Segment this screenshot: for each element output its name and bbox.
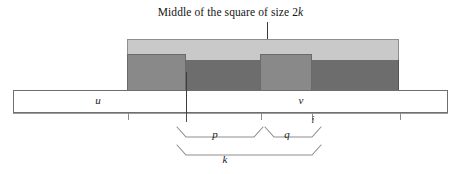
axis-label-i: i (303, 114, 323, 125)
figure-caption: Middle of the square of size 2k (0, 5, 461, 19)
brace-label-p: p (195, 128, 235, 140)
figure-caption-variable: k (298, 6, 303, 18)
brace-label-q: q (272, 128, 302, 140)
square-block-group (127, 39, 399, 93)
axis-tick-1 (128, 113, 129, 120)
brace-k (175, 144, 325, 160)
bar-split-line (186, 72, 187, 113)
figure-caption-text: Middle of the square of size 2 (158, 6, 298, 18)
caption-leader-line (267, 22, 268, 39)
left-gray-step (127, 54, 186, 93)
bar-label-v: v (281, 94, 321, 106)
axis-line (13, 113, 448, 114)
brace-label-k: k (205, 153, 245, 165)
bar-label-u: u (78, 94, 118, 106)
figure-canvas: Middle of the square of size 2k u v i p … (0, 0, 461, 174)
middle-gray-notch (260, 54, 312, 93)
axis-tick-5 (400, 113, 401, 120)
axis-tick-2 (186, 113, 187, 122)
axis-tick-3 (261, 113, 262, 120)
